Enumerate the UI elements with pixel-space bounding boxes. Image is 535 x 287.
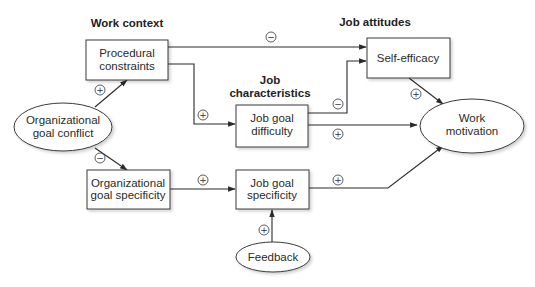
- sign-job-specificity-to-motivation: +: [333, 175, 343, 185]
- work-context-label: Work context: [91, 17, 164, 29]
- job-characteristics-label-line1: Job: [260, 74, 280, 86]
- svg-text:goal specificity: goal specificity: [91, 189, 166, 201]
- node-job-goal-specificity: Job goal specificity: [236, 170, 309, 209]
- svg-text:+: +: [334, 175, 342, 185]
- svg-text:+: +: [260, 225, 268, 235]
- node-feedback: Feedback: [236, 242, 310, 272]
- svg-text:goal conflict: goal conflict: [33, 127, 95, 139]
- sign-constraints-to-difficulty: +: [198, 110, 208, 120]
- job-attitudes-label: Job attitudes: [339, 16, 411, 28]
- sign-self-efficacy-to-motivation: +: [411, 89, 421, 99]
- svg-text:−: −: [96, 153, 104, 163]
- edge-job-specificity-to-motivation: [308, 146, 443, 188]
- svg-text:difficulty: difficulty: [251, 125, 293, 137]
- svg-text:+: +: [96, 85, 104, 95]
- svg-text:Self-efficacy: Self-efficacy: [377, 52, 440, 64]
- job-characteristics-label-line2: characteristics: [229, 87, 310, 99]
- svg-text:+: +: [412, 89, 420, 99]
- svg-text:motivation: motivation: [446, 125, 498, 137]
- svg-text:Feedback: Feedback: [248, 251, 299, 263]
- svg-text:specificity: specificity: [247, 189, 297, 201]
- svg-text:constraints: constraints: [99, 60, 155, 72]
- svg-text:Work: Work: [459, 112, 486, 124]
- svg-text:−: −: [334, 99, 342, 109]
- svg-text:+: +: [199, 110, 207, 120]
- sign-conflict-to-org-specificity: −: [95, 153, 105, 163]
- node-organizational-goal-specificity: Organizational goal specificity: [87, 170, 170, 209]
- node-organizational-goal-conflict: Organizational goal conflict: [14, 103, 112, 151]
- sign-difficulty-to-motivation: +: [333, 129, 343, 139]
- sign-conflict-to-constraints: +: [95, 85, 105, 95]
- svg-text:−: −: [267, 32, 275, 42]
- svg-text:Procedural: Procedural: [99, 47, 155, 59]
- svg-text:+: +: [334, 129, 342, 139]
- sign-feedback-to-job-specificity: +: [259, 225, 269, 235]
- node-self-efficacy: Self-efficacy: [367, 38, 450, 78]
- svg-text:Organizational: Organizational: [91, 177, 165, 189]
- sign-org-specificity-to-job-specificity: +: [198, 175, 208, 185]
- sign-constraints-to-self-efficacy: −: [266, 32, 276, 42]
- node-work-motivation: Work motivation: [420, 99, 524, 153]
- svg-text:+: +: [199, 175, 207, 185]
- node-job-goal-difficulty: Job goal difficulty: [236, 105, 308, 147]
- sign-difficulty-to-self-efficacy: −: [333, 99, 343, 109]
- diagram-canvas: Work context Job characteristics Job att…: [0, 0, 535, 287]
- svg-text:Job goal: Job goal: [250, 112, 293, 124]
- svg-text:Organizational: Organizational: [26, 114, 100, 126]
- node-procedural-constraints: Procedural constraints: [86, 40, 168, 80]
- svg-text:Job goal: Job goal: [250, 177, 293, 189]
